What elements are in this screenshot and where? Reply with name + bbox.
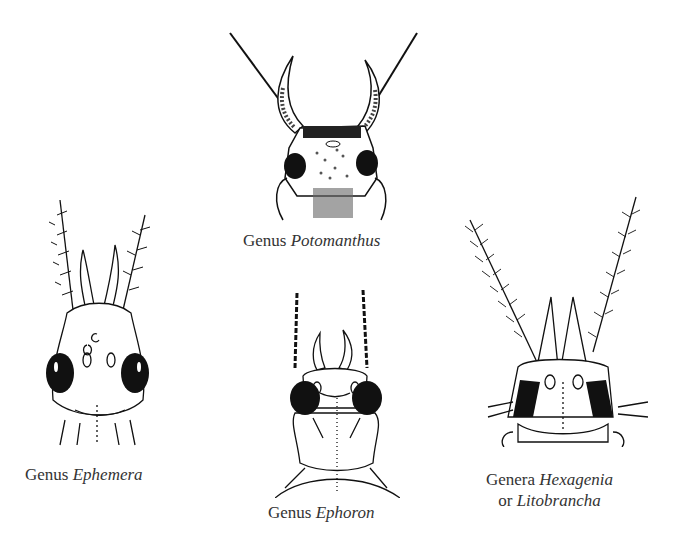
caption-prefix: Genus: [243, 231, 286, 250]
hexagenia-illustration: [458, 192, 653, 447]
caption-potomanthus: Genus Potomanthus: [243, 230, 380, 251]
caption-genus: Ephoron: [316, 503, 375, 522]
caption-ephemera: Genus Ephemera: [25, 464, 143, 485]
caption-ephoron: Genus Ephoron: [268, 502, 375, 523]
caption-line-2: or Litobrancha: [486, 490, 613, 511]
caption-prefix: Genera: [486, 470, 535, 489]
caption-genus-alt: Litobrancha: [517, 491, 601, 510]
caption-conjunction: or: [498, 491, 512, 510]
potomanthus-illustration: [225, 28, 450, 223]
caption-prefix: Genus: [268, 503, 311, 522]
caption-line-1: Genera Hexagenia: [486, 469, 613, 490]
caption-prefix: Genus: [25, 465, 68, 484]
ephoron-illustration: [275, 288, 400, 498]
ephemera-illustration: [35, 195, 160, 450]
caption-genus: Ephemera: [73, 465, 143, 484]
caption-hexagenia: Genera Hexagenia or Litobrancha: [486, 469, 613, 511]
caption-genus: Hexagenia: [539, 470, 613, 489]
caption-genus: Potomanthus: [291, 231, 381, 250]
